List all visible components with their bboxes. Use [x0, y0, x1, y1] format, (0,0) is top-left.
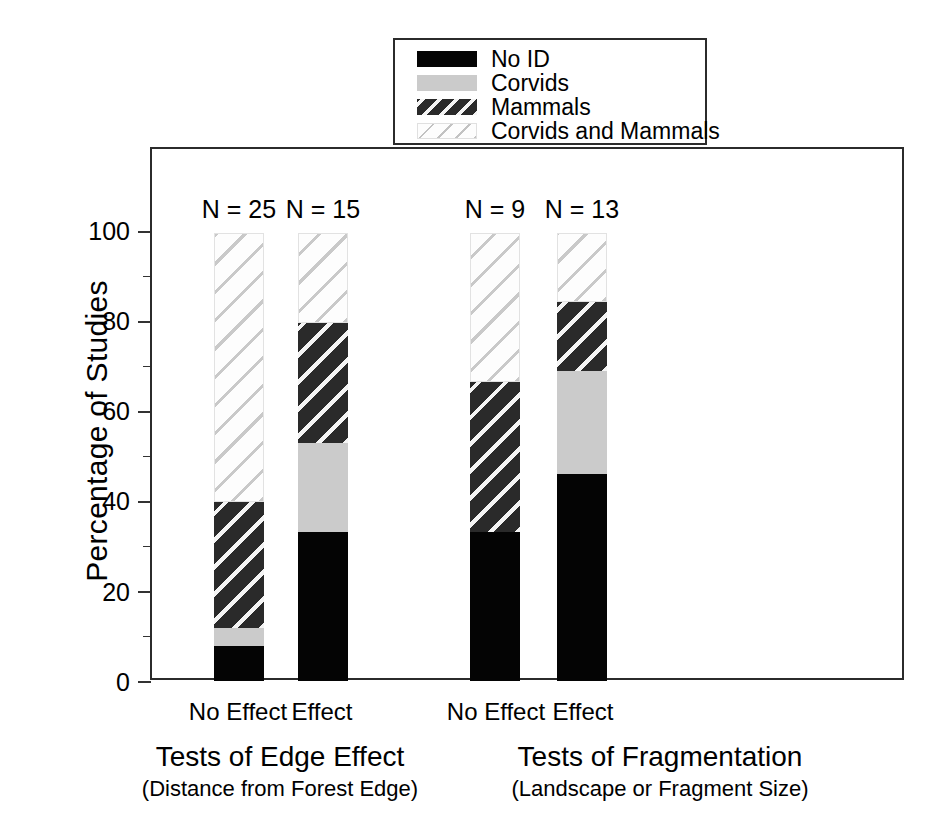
bar-fragmentation-no-effect[interactable]	[470, 233, 520, 681]
plot-area: N = 25 N = 15 N = 9 N = 13	[150, 147, 904, 680]
y-tick-label: 60	[60, 399, 130, 424]
bar-segment-no-id[interactable]	[214, 646, 264, 681]
group-subtitle-fragmentation: (Landscape or Fragment Size)	[460, 777, 860, 801]
legend: No ID Corvids Mammals Corvids and Mammal…	[393, 38, 707, 145]
legend-swatch-mammals-icon	[417, 99, 477, 115]
y-tick-label: 40	[60, 489, 130, 514]
bar-edge-no-effect[interactable]	[214, 233, 264, 681]
bar-segment-mammals[interactable]	[470, 382, 520, 532]
bar-segment-corvids[interactable]	[214, 628, 264, 646]
legend-label: No ID	[491, 48, 550, 71]
x-category-label-2: Effect	[242, 700, 402, 724]
chart-figure: Percentage of Studies 100 80 60 40 20 0	[0, 0, 942, 830]
legend-item-corvids[interactable]: Corvids	[417, 71, 705, 95]
bar-segment-no-id[interactable]	[298, 532, 348, 681]
y-tick-label: 100	[60, 219, 130, 244]
bar-segment-no-id[interactable]	[470, 532, 520, 681]
legend-label: Corvids and Mammals	[491, 120, 720, 143]
y-tick-label: 80	[60, 309, 130, 334]
plot-inner: N = 25 N = 15 N = 9 N = 13	[152, 149, 902, 678]
group-title-edge-effect: Tests of Edge Effect	[80, 742, 480, 772]
group-title-fragmentation: Tests of Fragmentation	[460, 742, 860, 772]
y-tick-label: 0	[60, 670, 130, 695]
legend-label: Mammals	[491, 96, 591, 119]
bar-segment-corvids-and-mammals[interactable]	[298, 233, 348, 323]
bar-segment-no-id[interactable]	[557, 474, 607, 681]
legend-swatch-corvids-and-mammals-icon	[417, 123, 477, 139]
legend-item-mammals[interactable]: Mammals	[417, 95, 705, 119]
x-category-label-4: Effect	[503, 700, 663, 724]
sample-size-label-2: N = 15	[253, 197, 393, 222]
bar-segment-mammals[interactable]	[298, 323, 348, 443]
bar-segment-corvids-and-mammals[interactable]	[470, 233, 520, 382]
bar-segment-corvids[interactable]	[298, 443, 348, 532]
y-tick-label: 20	[60, 580, 130, 605]
legend-item-corvids-and-mammals[interactable]: Corvids and Mammals	[417, 119, 705, 143]
sample-size-label-4: N = 13	[512, 197, 652, 222]
bar-edge-effect[interactable]	[298, 233, 348, 681]
bar-segment-mammals[interactable]	[214, 502, 264, 628]
group-subtitle-edge-effect: (Distance from Forest Edge)	[80, 777, 480, 801]
legend-item-no-id[interactable]: No ID	[417, 47, 705, 71]
bar-segment-corvids[interactable]	[557, 371, 607, 474]
legend-swatch-corvids-icon	[417, 75, 477, 91]
bar-segment-corvids-and-mammals[interactable]	[214, 233, 264, 502]
legend-label: Corvids	[491, 72, 569, 95]
bar-fragmentation-effect[interactable]	[557, 233, 607, 681]
bar-segment-mammals[interactable]	[557, 302, 607, 371]
legend-swatch-no-id-icon	[417, 51, 477, 67]
bar-segment-corvids-and-mammals[interactable]	[557, 233, 607, 302]
y-tick-major	[138, 681, 151, 683]
